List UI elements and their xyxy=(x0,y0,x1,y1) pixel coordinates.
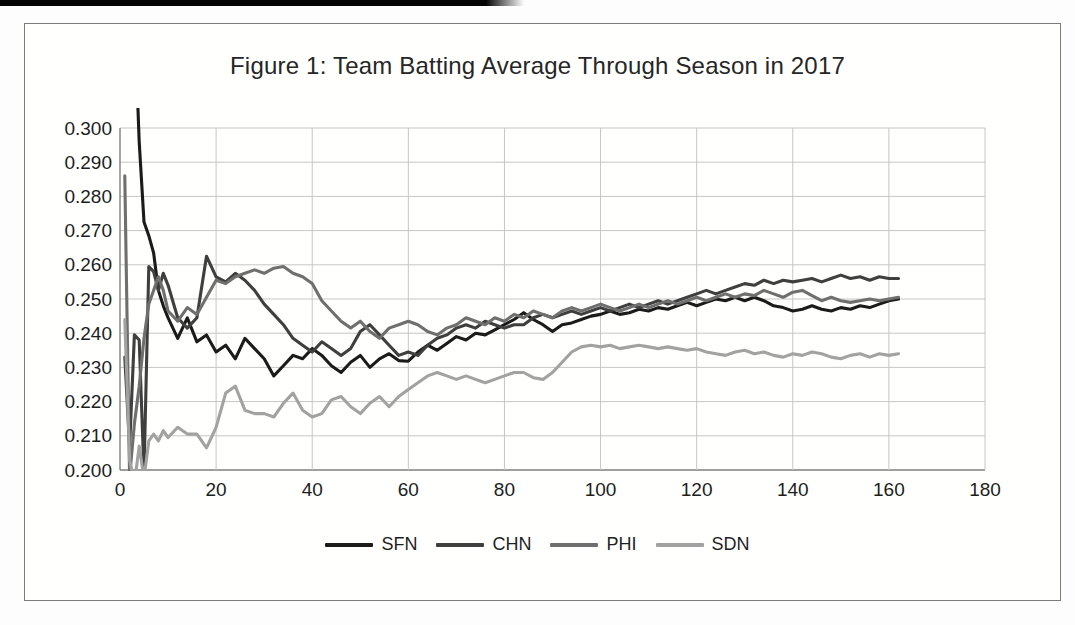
y-tick-label-0.300: 0.300 xyxy=(38,118,112,139)
x-tick-label-120: 120 xyxy=(665,479,729,500)
legend-item-chn: CHN xyxy=(436,534,531,555)
x-tick-label-20: 20 xyxy=(184,479,248,500)
legend-label-phi: PHI xyxy=(606,534,636,555)
y-tick-label-0.290: 0.290 xyxy=(38,152,112,173)
legend-label-sdn: SDN xyxy=(712,534,750,555)
y-tick-label-0.220: 0.220 xyxy=(38,391,112,412)
line-chart-canvas xyxy=(0,0,1075,625)
x-tick-label-100: 100 xyxy=(569,479,633,500)
y-tick-label-0.270: 0.270 xyxy=(38,220,112,241)
scanned-figure-page: Figure 1: Team Batting Average Through S… xyxy=(0,0,1075,625)
y-tick-label-0.240: 0.240 xyxy=(38,323,112,344)
legend-item-sfn: SFN xyxy=(325,534,417,555)
chart-legend: SFNCHNPHISDN xyxy=(0,534,1075,555)
x-tick-label-0: 0 xyxy=(88,479,152,500)
y-tick-label-0.230: 0.230 xyxy=(38,357,112,378)
y-tick-label-0.250: 0.250 xyxy=(38,289,112,310)
legend-item-phi: PHI xyxy=(550,534,636,555)
series-line-chn xyxy=(125,256,899,473)
legend-line-swatch-chn xyxy=(436,543,484,547)
y-tick-label-0.260: 0.260 xyxy=(38,254,112,275)
legend-line-swatch-sfn xyxy=(325,543,373,547)
x-tick-label-60: 60 xyxy=(376,479,440,500)
x-tick-label-80: 80 xyxy=(472,479,536,500)
x-tick-label-160: 160 xyxy=(857,479,921,500)
y-tick-label-0.280: 0.280 xyxy=(38,186,112,207)
series-line-sfn xyxy=(125,0,899,376)
x-tick-label-40: 40 xyxy=(280,479,344,500)
y-tick-label-0.210: 0.210 xyxy=(38,425,112,446)
legend-label-chn: CHN xyxy=(492,534,531,555)
y-tick-label-0.200: 0.200 xyxy=(38,460,112,481)
x-tick-label-180: 180 xyxy=(953,479,1017,500)
legend-line-swatch-sdn xyxy=(656,543,704,547)
x-tick-label-140: 140 xyxy=(761,479,825,500)
legend-item-sdn: SDN xyxy=(656,534,750,555)
legend-line-swatch-phi xyxy=(550,543,598,547)
legend-label-sfn: SFN xyxy=(381,534,417,555)
